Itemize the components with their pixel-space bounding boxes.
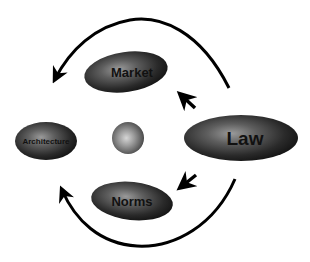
architecture-label: Architecture — [22, 137, 70, 146]
law-label: Law — [227, 128, 264, 149]
node-norms: Norms — [89, 178, 175, 224]
node-market: Market — [82, 46, 171, 97]
norms-label: Norms — [111, 194, 152, 209]
market-label: Market — [111, 65, 154, 80]
node-architecture: Architecture — [15, 122, 77, 160]
arrow-law-to-norms — [181, 175, 196, 187]
node-law: Law — [184, 115, 298, 161]
modalities-diagram: Market Architecture Law Norms — [0, 0, 310, 262]
center-sphere — [112, 122, 144, 154]
arrow-law-to-market — [181, 95, 195, 108]
